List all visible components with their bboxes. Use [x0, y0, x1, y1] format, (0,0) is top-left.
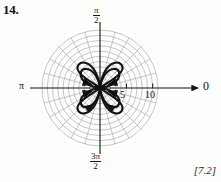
polar-axes: [30, 22, 198, 154]
radial-tick-label-10: 10: [145, 90, 155, 100]
fraction-denominator: 2: [90, 162, 101, 171]
axis-label-pi-over-2: π 2: [93, 6, 100, 27]
axis-label-zero: 0: [203, 80, 209, 92]
axis-label-3pi-over-2: 3π 2: [90, 152, 101, 173]
fraction-denominator: 2: [93, 16, 100, 25]
source-citation: [7.2]: [194, 165, 216, 176]
figure-root: 14.: [0, 0, 221, 182]
fraction-3pi-over-2: 3π 2: [90, 152, 101, 171]
fraction-pi-over-2: π 2: [93, 6, 100, 25]
radial-tick-label-5: 5: [120, 90, 125, 100]
axis-label-pi: π: [19, 81, 24, 91]
polar-plot: [0, 0, 221, 182]
radial-ticks: [126, 84, 152, 89]
